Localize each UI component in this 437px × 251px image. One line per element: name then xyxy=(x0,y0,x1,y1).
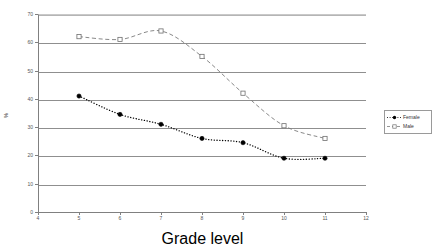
x-tick-label-12: 12 xyxy=(358,215,374,221)
data-point-male-grade-10 xyxy=(282,124,286,128)
x-tick-label-8: 8 xyxy=(194,215,210,221)
y-tick-label-60: 60 xyxy=(11,39,33,45)
y-axis-title: % xyxy=(3,113,9,118)
x-axis-title-wrapper: Grade level xyxy=(38,230,367,248)
data-point-male-grade-6 xyxy=(118,37,122,41)
data-point-female-grade-11 xyxy=(323,156,327,160)
y-tick-label-30: 30 xyxy=(11,124,33,130)
data-point-male-grade-5 xyxy=(77,35,81,39)
x-tick-label-7: 7 xyxy=(153,215,169,221)
y-tick-label-20: 20 xyxy=(11,152,33,158)
series-line-male xyxy=(79,30,325,138)
legend-label-male: Male xyxy=(402,122,414,131)
x-tick-mark-11 xyxy=(325,212,326,215)
series-male xyxy=(77,29,327,141)
legend-key-female xyxy=(387,113,402,122)
x-tick-label-4: 4 xyxy=(30,215,46,221)
data-point-male-grade-8 xyxy=(200,54,204,58)
y-tick-label-70: 70 xyxy=(11,11,33,17)
data-series-layer xyxy=(38,14,366,212)
chart-container: % 010203040506070 456789101112 Grade lev… xyxy=(0,0,437,251)
x-tick-mark-4 xyxy=(38,212,39,215)
legend-item-female: Female xyxy=(387,113,429,122)
x-tick-label-9: 9 xyxy=(235,215,251,221)
x-tick-mark-8 xyxy=(202,212,203,215)
x-tick-mark-10 xyxy=(284,212,285,215)
data-point-female-grade-8 xyxy=(200,136,204,140)
y-tick-label-50: 50 xyxy=(11,68,33,74)
data-point-female-grade-6 xyxy=(118,112,122,116)
x-tick-label-6: 6 xyxy=(112,215,128,221)
legend-key-male xyxy=(387,122,402,131)
data-point-female-grade-9 xyxy=(241,141,245,145)
x-tick-mark-9 xyxy=(243,212,244,215)
x-tick-mark-7 xyxy=(161,212,162,215)
x-tick-label-10: 10 xyxy=(276,215,292,221)
data-point-female-grade-5 xyxy=(77,94,81,98)
x-tick-label-11: 11 xyxy=(317,215,333,221)
x-tick-label-5: 5 xyxy=(71,215,87,221)
series-line-female xyxy=(79,96,325,159)
x-axis-title: Grade level xyxy=(162,230,244,247)
data-point-female-grade-7 xyxy=(159,122,163,126)
legend-item-male: Male xyxy=(387,122,429,131)
data-point-female-grade-10 xyxy=(282,156,286,160)
legend-label-female: Female xyxy=(402,113,420,122)
data-point-male-grade-11 xyxy=(323,136,327,140)
series-female xyxy=(77,94,327,160)
y-tick-label-10: 10 xyxy=(11,181,33,187)
y-tick-label-40: 40 xyxy=(11,96,33,102)
data-point-male-grade-9 xyxy=(241,91,245,95)
x-tick-mark-6 xyxy=(120,212,121,215)
chart-legend: Female Male xyxy=(384,110,432,134)
x-tick-mark-5 xyxy=(79,212,80,215)
x-tick-mark-12 xyxy=(366,212,367,215)
data-point-male-grade-7 xyxy=(159,29,163,33)
